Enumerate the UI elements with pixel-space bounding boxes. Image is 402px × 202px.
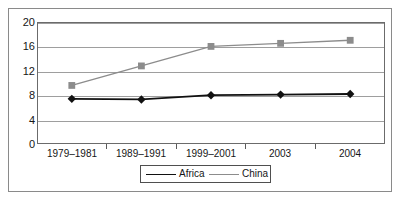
chart-legend: Africa China (140, 165, 271, 183)
series-canvas (37, 22, 385, 144)
data-point (137, 95, 145, 103)
legend-item-africa: Africa (146, 166, 205, 182)
series-markers-africa (68, 90, 355, 104)
x-tick-label-1979-1981: 1979–1981 (47, 149, 97, 159)
data-point (347, 37, 354, 44)
series-markers-china (68, 37, 353, 89)
x-tick-label-2004: 2004 (339, 149, 361, 159)
x-tick-1 (176, 144, 177, 149)
legend-label-africa: Africa (179, 169, 205, 179)
chart-figure: 20 16 12 8 4 0 1979–1981 1989–1991 1999–… (0, 0, 402, 202)
data-point (207, 91, 215, 99)
data-point (68, 95, 76, 103)
x-tick-label-2003: 2003 (269, 149, 291, 159)
legend-marker-africa (146, 168, 176, 180)
x-tick-label-1989-1991: 1989–1991 (116, 149, 166, 159)
data-point (277, 40, 284, 47)
legend-marker-china (209, 168, 239, 180)
data-point (346, 90, 354, 98)
data-point (276, 90, 284, 98)
legend-label-china: China (242, 169, 268, 179)
x-tick-label-1999-2001: 1999–2001 (186, 149, 236, 159)
x-tick-2 (245, 144, 246, 149)
x-tick-3 (315, 144, 316, 149)
data-point (68, 82, 75, 89)
data-point (208, 43, 215, 50)
legend-item-china: China (209, 166, 268, 182)
data-point (138, 63, 145, 70)
x-tick-0 (106, 144, 107, 149)
